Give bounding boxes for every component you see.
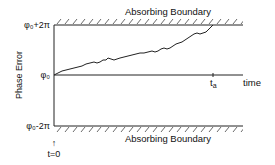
- phase-error-diagram: Absorbing Boundary Absorbing Boundary φ₀…: [0, 0, 275, 165]
- bottom-boundary-label: Absorbing Boundary: [125, 133, 211, 144]
- absorption-time-label: ta: [210, 77, 217, 89]
- y-tick-lower: φ₀-2π: [26, 121, 50, 131]
- top-absorbing-boundary: [54, 19, 243, 25]
- y-tick-origin: φ₀: [40, 70, 50, 80]
- top-boundary-label: Absorbing Boundary: [125, 6, 211, 17]
- y-axis-label: Phase Error: [14, 51, 24, 99]
- x-axis-label: time: [243, 77, 261, 88]
- start-arrow: ↑: [52, 138, 57, 148]
- y-tick-upper: φ₀+2π: [24, 20, 50, 30]
- bottom-absorbing-boundary: [54, 126, 243, 132]
- start-time-label: t=0: [48, 149, 61, 159]
- phase-error-curve: [54, 25, 213, 75]
